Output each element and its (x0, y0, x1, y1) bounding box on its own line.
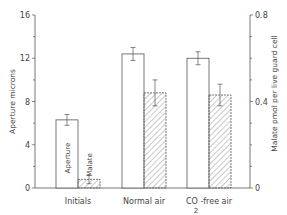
y-tick-label: 8 (25, 98, 30, 107)
y-right-tick-label: 0.4 (255, 98, 268, 107)
bar-aperture (187, 58, 209, 188)
y-tick-label: 12 (20, 54, 30, 63)
category-label: Initials (65, 197, 91, 206)
bar-aperture (122, 54, 144, 188)
bar-label-malate: Malate (86, 153, 94, 177)
y-right-axis-title: Malate pmol per live guard cell (270, 35, 279, 151)
y-axis-title: Aperture microns (8, 69, 17, 134)
y-tick-label: 16 (20, 11, 30, 20)
bar-malate (144, 93, 166, 188)
y-right-tick-label: 0 (255, 184, 260, 193)
y-tick-label: 0 (25, 184, 30, 193)
category-label: CO -free air (186, 197, 233, 206)
bar-chart: 048121600.40.8Aperture micronsMalate pmo… (0, 0, 287, 215)
bars (56, 47, 231, 188)
y-right-tick-label: 0.8 (255, 11, 268, 20)
category-subscript: 2 (194, 207, 198, 215)
y-tick-label: 4 (25, 141, 30, 150)
category-label: Normal air (123, 197, 166, 206)
bar-label-aperture: Aperture (64, 143, 72, 174)
bar-malate (209, 95, 231, 188)
